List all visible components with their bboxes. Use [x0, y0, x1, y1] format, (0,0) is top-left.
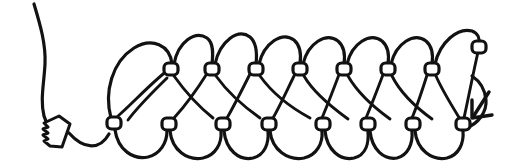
knot-top-3 — [249, 63, 263, 75]
knot-bottom-3 — [216, 118, 230, 130]
knot-bottom-1 — [107, 117, 121, 129]
knot-diagram-canvas — [0, 0, 531, 167]
knot-bottom-5 — [316, 118, 330, 130]
knot-top-2 — [205, 63, 219, 75]
knot-top-1 — [164, 63, 178, 75]
knot-bottom-8 — [456, 118, 470, 130]
knot-bottom-6 — [361, 118, 375, 130]
knot-bottom-2 — [162, 118, 176, 130]
knot-diagram-figure: A hand-drawn line diagram of a knotted c… — [0, 0, 531, 167]
knot-top-8 — [472, 41, 486, 53]
knot-top-4 — [293, 63, 307, 75]
knot-top-5 — [337, 63, 351, 75]
knot-top-6 — [381, 63, 395, 75]
knot-bottom-7 — [406, 118, 420, 130]
knot-top-7 — [425, 63, 439, 75]
knot-bottom-4 — [262, 118, 276, 130]
